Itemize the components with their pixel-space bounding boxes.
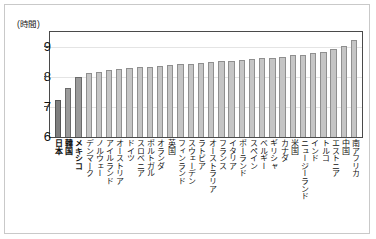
bar <box>157 66 163 137</box>
bar-cell <box>84 32 94 137</box>
x-label-cell: オーストリア <box>114 139 124 237</box>
bar-cell <box>124 32 134 137</box>
bar-cell <box>53 32 63 137</box>
y-tick-mark <box>44 106 49 107</box>
x-label-cell: スペイン <box>247 139 257 237</box>
bar <box>218 61 224 137</box>
x-label-cell: インド <box>309 139 319 237</box>
x-tick-label: スウェーデン <box>187 139 195 185</box>
x-tick-label: デンマーク <box>84 139 92 177</box>
bar <box>96 72 102 137</box>
bar-cell <box>175 32 185 137</box>
plot-area <box>49 31 363 138</box>
x-label-cell: メキシコ <box>73 139 83 237</box>
bar-cell <box>63 32 73 137</box>
bar-cell <box>318 32 328 137</box>
x-tick-label: インド <box>310 139 318 162</box>
x-tick-label: ノルウェー <box>94 139 102 177</box>
x-tick-label: トルコ <box>320 139 328 162</box>
bar-cell <box>288 32 298 137</box>
bar <box>208 62 214 137</box>
x-label-cell: エストニア <box>329 139 339 237</box>
x-tick-label: ギリシャ <box>269 139 277 169</box>
bar-cell <box>186 32 196 137</box>
x-label-cell: ポーランド <box>237 139 247 237</box>
bar-cell <box>73 32 83 137</box>
bar <box>75 77 81 137</box>
x-tick-label: オランダ <box>156 139 164 169</box>
bar <box>259 58 265 137</box>
x-label-cell: デンマーク <box>83 139 93 237</box>
bar-series <box>50 32 362 137</box>
x-label-cell: カナダ <box>278 139 288 237</box>
bar-cell <box>155 32 165 137</box>
bar <box>300 55 306 138</box>
bar <box>351 40 357 138</box>
x-label-cell: オランダ <box>155 139 165 237</box>
x-tick-label: エストニア <box>330 139 338 177</box>
bar-cell <box>196 32 206 137</box>
x-tick-label: オーストラリア <box>207 139 215 192</box>
bar <box>341 46 347 138</box>
x-tick-label: 中国 <box>340 139 348 154</box>
bar-cell <box>104 32 114 137</box>
bar <box>310 53 316 137</box>
x-tick-label: カナダ <box>279 139 287 162</box>
bar <box>116 69 122 137</box>
bar <box>188 64 194 138</box>
bar-cell <box>277 32 287 137</box>
bar-cell <box>308 32 318 137</box>
x-label-cell: 中国 <box>339 139 349 237</box>
x-tick-label: メキシコ <box>74 139 82 169</box>
x-tick-label: ニュージーランド <box>299 139 307 200</box>
bar <box>279 57 285 137</box>
y-tick-mark <box>44 46 49 47</box>
bar <box>239 60 245 137</box>
bar <box>228 61 234 138</box>
x-label-cell: ラトビア <box>196 139 206 237</box>
x-tick-label: アイルランド <box>104 139 112 185</box>
bar <box>147 67 153 138</box>
x-label-cell: オーストラリア <box>206 139 216 237</box>
bar <box>249 59 255 137</box>
x-label-cell: ギリシャ <box>268 139 278 237</box>
y-tick-label: 6 <box>11 130 51 143</box>
x-label-cell: フィンランド <box>175 139 185 237</box>
x-label-cell: 米国 <box>288 139 298 237</box>
x-tick-label: フランス <box>217 139 225 169</box>
x-label-cell: フランス <box>216 139 226 237</box>
x-tick-label: イタリア <box>228 139 236 169</box>
x-tick-label: フィンランド <box>176 139 184 185</box>
x-tick-label: 日本 <box>53 139 61 154</box>
x-tick-label: 英国 <box>166 139 174 154</box>
bar <box>137 67 143 137</box>
bar <box>177 64 183 137</box>
x-label-cell: イタリア <box>227 139 237 237</box>
x-tick-label: オーストリア <box>115 139 123 185</box>
x-tick-label: ドイツ <box>125 139 133 162</box>
x-tick-label: ポルトガル <box>145 139 153 177</box>
bar <box>65 88 71 138</box>
x-label-cell: スウェーデン <box>185 139 195 237</box>
x-label-cell: 南アフリカ <box>350 139 360 237</box>
bar-cell <box>349 32 359 137</box>
x-tick-label: 韓国 <box>63 139 71 154</box>
x-tick-label: 南アフリカ <box>351 139 359 177</box>
bar-cell <box>298 32 308 137</box>
chart-frame: (時間) 6789 日本韓国メキシコデンマークノルウェーアイルランドオーストリア… <box>4 4 370 234</box>
bar <box>106 70 112 138</box>
bar-cell <box>216 32 226 137</box>
bar-cell <box>247 32 257 137</box>
bar-cell <box>206 32 216 137</box>
x-axis-labels: 日本韓国メキシコデンマークノルウェーアイルランドオーストリアドイツスロベニアポル… <box>49 139 363 237</box>
x-tick-label: ポーランド <box>238 139 246 177</box>
bar-cell <box>114 32 124 137</box>
x-label-cell: 韓国 <box>62 139 72 237</box>
bar-cell <box>226 32 236 137</box>
bar-cell <box>145 32 155 137</box>
x-label-cell: ノルウェー <box>93 139 103 237</box>
bar <box>126 68 132 137</box>
bar <box>167 65 173 137</box>
x-label-cell: ポルトガル <box>144 139 154 237</box>
bar-cell <box>257 32 267 137</box>
